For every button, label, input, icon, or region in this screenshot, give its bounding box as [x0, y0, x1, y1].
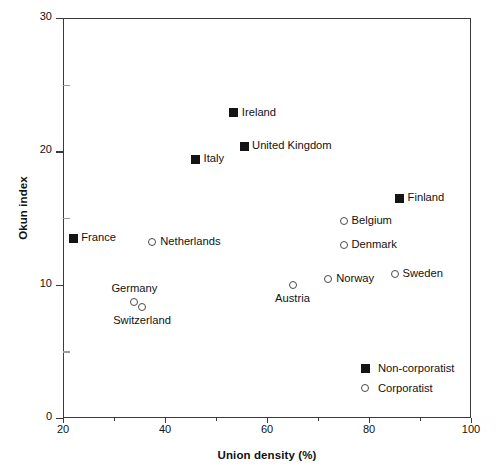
data-point-marker: [289, 281, 297, 289]
data-point-label: Norway: [336, 274, 374, 285]
data-point-marker: [340, 241, 348, 249]
x-minor-tick-mark: [420, 418, 421, 421]
x-minor-tick-mark: [216, 418, 217, 421]
data-point-label: Finland: [408, 192, 445, 203]
y-tick-mark: [56, 151, 63, 152]
scatter-chart-figure: 20406080100 0102030 FranceItalyIrelandUn…: [0, 0, 503, 474]
legend-filled-square-icon: [358, 364, 372, 373]
data-point-marker: [69, 234, 78, 243]
y-tick-mark: [56, 418, 63, 419]
data-point-marker: [395, 194, 404, 203]
y-tick-label: 10: [18, 277, 52, 289]
data-point-marker: [240, 142, 249, 151]
y-tick-label: 0: [18, 410, 52, 422]
x-minor-tick-mark: [114, 418, 115, 421]
legend-label: Non-corporatist: [378, 362, 454, 374]
data-point-label: Belgium: [352, 215, 392, 226]
x-minor-tick-mark: [318, 418, 319, 421]
data-point-label: Italy: [204, 154, 225, 165]
x-tick-label: 60: [247, 423, 287, 435]
data-point-label: Switzerland: [113, 315, 171, 326]
x-tick-label: 20: [43, 423, 83, 435]
y-minor-tick-mark: [63, 218, 70, 219]
chart-legend: Non-corporatistCorporatist: [358, 358, 454, 398]
y-tick-label: 30: [18, 10, 52, 22]
data-point-label: Germany: [111, 283, 157, 294]
y-minor-tick-mark: [63, 85, 70, 86]
data-point-label: Netherlands: [160, 236, 220, 247]
x-tick-label: 80: [349, 423, 389, 435]
data-point-label: Denmark: [352, 239, 397, 250]
y-minor-tick-mark: [63, 351, 70, 352]
data-point-label: United Kingdom: [252, 140, 332, 151]
x-axis-title: Union density (%): [63, 449, 471, 461]
legend-open-circle-icon: [358, 384, 372, 392]
data-point-marker: [229, 108, 238, 117]
data-point-marker: [340, 217, 348, 225]
legend-item: Non-corporatist: [358, 358, 454, 378]
data-point-label: Austria: [275, 293, 310, 304]
data-point-label: Sweden: [403, 268, 443, 279]
y-tick-mark: [56, 285, 63, 286]
data-point-label: Ireland: [242, 107, 276, 118]
y-tick-mark: [56, 18, 63, 19]
data-point-marker: [391, 270, 399, 278]
legend-label: Corporatist: [378, 382, 433, 394]
y-axis-title: Okun index: [17, 138, 29, 278]
x-tick-label: 100: [451, 423, 491, 435]
data-point-marker: [191, 155, 200, 164]
legend-item: Corporatist: [358, 378, 454, 398]
x-tick-label: 40: [145, 423, 185, 435]
data-point-label: France: [81, 232, 116, 243]
